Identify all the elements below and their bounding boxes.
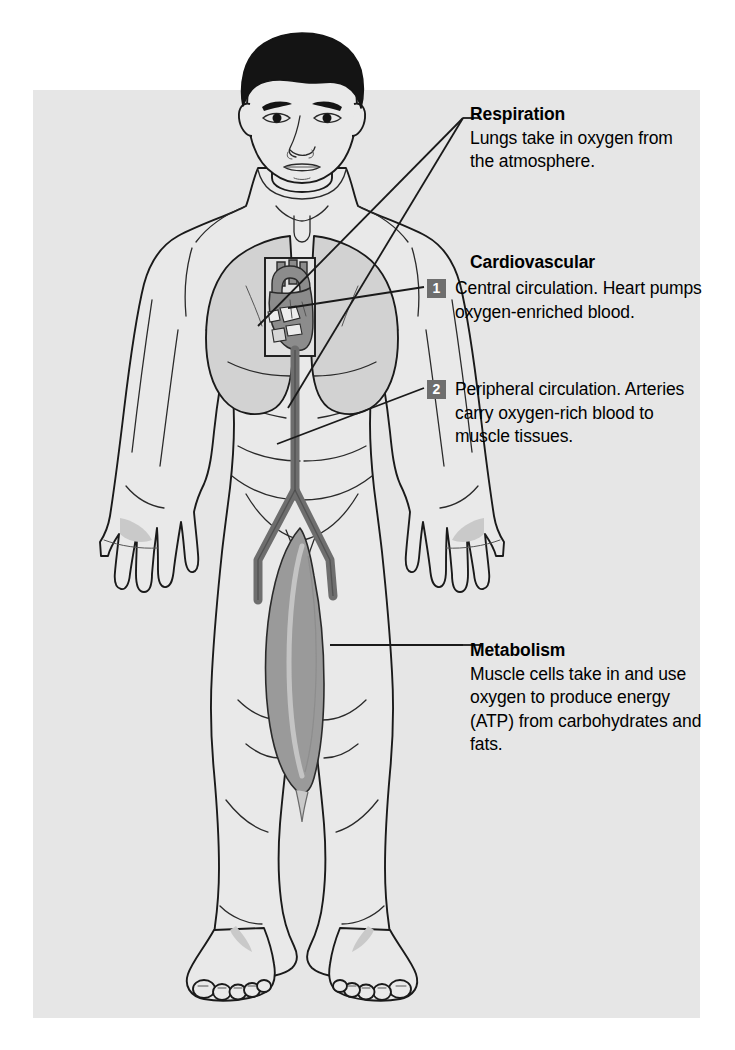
callout-cardiovascular-title: Cardiovascular xyxy=(470,251,700,275)
badge-2: 2 xyxy=(427,380,446,399)
badge-1: 1 xyxy=(427,279,446,298)
cardiovascular-item-1: 1 Central circulation. Heart pumps oxyge… xyxy=(427,277,702,324)
callout-metabolism-title: Metabolism xyxy=(470,639,710,663)
callout-cardiovascular-title-block: Cardiovascular xyxy=(470,251,700,275)
callout-metabolism-body: Muscle cells take in and use oxygen to p… xyxy=(470,663,710,757)
cardiovascular-item-2: 2 Peripheral circulation. Arteries carry… xyxy=(427,378,707,449)
callout-respiration: Respiration Lungs take in oxygen from th… xyxy=(470,103,685,174)
diagram-stage: .ol { fill:none; stroke:#1a1a1a; stroke-… xyxy=(0,0,735,1050)
feet xyxy=(187,926,417,1001)
callout-respiration-body: Lungs take in oxygen from the atmosphere… xyxy=(470,127,685,174)
callout-metabolism: Metabolism Muscle cells take in and use … xyxy=(470,639,710,757)
cardiovascular-item-1-text: Central circulation. Heart pumps oxygen-… xyxy=(455,277,702,324)
callout-respiration-title: Respiration xyxy=(470,103,685,127)
cardiovascular-item-2-text: Peripheral circulation. Arteries carry o… xyxy=(455,378,707,449)
